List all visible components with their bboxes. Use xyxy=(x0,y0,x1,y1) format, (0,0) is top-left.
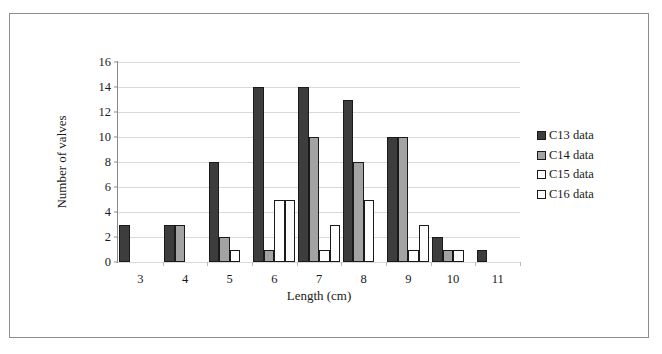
y-axis-title: Number of valves xyxy=(54,115,70,208)
y-tick-mark xyxy=(114,87,118,88)
y-gridline xyxy=(118,162,520,163)
y-tick-mark xyxy=(114,62,118,63)
bar xyxy=(364,200,375,263)
x-tick-mark xyxy=(431,262,432,266)
legend-swatch-icon xyxy=(537,131,546,140)
bar xyxy=(330,225,341,263)
bar xyxy=(387,137,398,262)
legend-swatch-icon xyxy=(537,170,546,179)
legend-label: C16 data xyxy=(549,187,594,202)
bar-chart: 0246810121416 Number of valves Length (c… xyxy=(0,0,662,354)
bar xyxy=(443,250,454,263)
x-tick-label: 9 xyxy=(405,272,411,287)
bar xyxy=(398,137,409,262)
y-tick-mark xyxy=(114,112,118,113)
y-tick-label: 6 xyxy=(105,180,111,195)
bar xyxy=(453,250,464,263)
legend-item[interactable]: C14 data xyxy=(537,148,594,163)
bar xyxy=(119,225,130,263)
legend-item[interactable]: C16 data xyxy=(537,187,594,202)
x-tick-label: 10 xyxy=(447,272,460,287)
legend-label: C14 data xyxy=(549,148,594,163)
bar xyxy=(298,87,309,262)
x-tick-mark xyxy=(341,262,342,266)
x-tick-label: 7 xyxy=(316,272,322,287)
x-tick-mark xyxy=(252,262,253,266)
x-tick-label: 8 xyxy=(361,272,367,287)
legend-item[interactable]: C15 data xyxy=(537,167,594,182)
y-tick-label: 16 xyxy=(99,55,112,70)
bar xyxy=(419,225,430,263)
y-tick-mark xyxy=(114,262,118,263)
x-tick-label: 6 xyxy=(271,272,277,287)
y-tick-mark xyxy=(114,237,118,238)
bar xyxy=(408,250,419,263)
x-tick-mark xyxy=(163,262,164,266)
y-tick-label: 2 xyxy=(105,230,111,245)
x-tick-label: 5 xyxy=(227,272,233,287)
x-tick-mark xyxy=(207,262,208,266)
y-tick-label: 14 xyxy=(99,80,112,95)
bar xyxy=(343,100,354,263)
bar xyxy=(175,225,186,263)
y-tick-label: 4 xyxy=(105,205,111,220)
bar xyxy=(319,250,330,263)
legend-label: C15 data xyxy=(549,167,594,182)
bar xyxy=(309,137,320,262)
bar xyxy=(164,225,175,263)
bar xyxy=(264,250,275,263)
chart-legend: C13 dataC14 dataC15 dataC16 data xyxy=(537,128,594,202)
bar xyxy=(285,200,296,263)
x-tick-mark xyxy=(386,262,387,266)
y-tick-mark xyxy=(114,187,118,188)
bar xyxy=(230,250,241,263)
y-gridline xyxy=(118,62,520,63)
x-tick-label: 3 xyxy=(137,272,143,287)
legend-swatch-icon xyxy=(537,151,546,160)
plot-area: 0246810121416 xyxy=(118,62,520,262)
y-tick-label: 12 xyxy=(99,105,112,120)
legend-swatch-icon xyxy=(537,190,546,199)
x-tick-mark xyxy=(475,262,476,266)
bar xyxy=(353,162,364,262)
y-tick-mark xyxy=(114,137,118,138)
y-gridline xyxy=(118,262,520,263)
legend-item[interactable]: C13 data xyxy=(537,128,594,143)
bar xyxy=(209,162,220,262)
legend-label: C13 data xyxy=(549,128,594,143)
bar xyxy=(274,200,285,263)
y-gridline xyxy=(118,212,520,213)
y-tick-label: 0 xyxy=(105,255,111,270)
y-gridline xyxy=(118,87,520,88)
bar xyxy=(477,250,488,263)
bar xyxy=(253,87,264,262)
y-gridline xyxy=(118,137,520,138)
y-tick-mark xyxy=(114,162,118,163)
x-tick-label: 4 xyxy=(182,272,188,287)
x-tick-mark xyxy=(297,262,298,266)
y-tick-mark xyxy=(114,212,118,213)
y-tick-label: 10 xyxy=(99,130,112,145)
x-tick-label: 11 xyxy=(492,272,504,287)
y-gridline xyxy=(118,112,520,113)
bar xyxy=(432,237,443,262)
bar xyxy=(219,237,230,262)
x-tick-mark xyxy=(520,262,521,266)
y-gridline xyxy=(118,187,520,188)
x-axis-title: Length (cm) xyxy=(118,288,520,304)
y-tick-label: 8 xyxy=(105,155,111,170)
